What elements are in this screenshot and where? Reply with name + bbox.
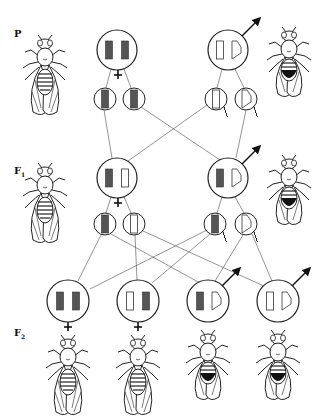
f1-male-gametes	[204, 213, 258, 242]
male-symbol-icon	[242, 148, 258, 164]
f1-female-gametes	[94, 213, 145, 235]
p-female-genotype	[97, 30, 137, 79]
f1-female-fly	[23, 163, 67, 243]
p-male-genotype	[208, 20, 258, 70]
f2-offspring-4	[256, 270, 308, 400]
f2-offspring-3	[186, 270, 238, 400]
male-symbol-icon	[242, 20, 258, 36]
f2-offspring-2	[116, 280, 160, 415]
f1-male-genotype	[208, 148, 258, 198]
male-symbol-icon	[292, 270, 308, 286]
p-male-gametes	[205, 88, 258, 117]
p-female-fly	[23, 35, 67, 115]
male-symbol-icon	[222, 270, 238, 286]
p-female-gametes	[94, 88, 145, 110]
female-symbol-icon	[114, 198, 122, 207]
f1-female-genotype	[97, 158, 137, 207]
female-symbol-icon	[134, 322, 142, 331]
cross-diagram	[0, 0, 326, 420]
f2-offspring-1	[46, 280, 90, 415]
p-male-fly	[267, 27, 311, 97]
female-symbol-icon	[64, 322, 72, 331]
f1-male-fly	[267, 155, 311, 225]
female-symbol-icon	[114, 70, 122, 79]
